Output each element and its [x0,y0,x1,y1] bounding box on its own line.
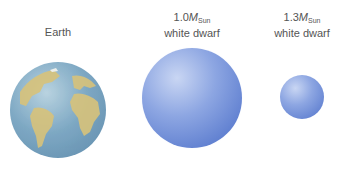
continents-icon [10,62,106,158]
white-dwarf-1-sphere [142,48,242,148]
earth-label: Earth [28,26,88,39]
earth-globe [10,62,106,158]
white-dwarf-2-sphere [280,75,324,119]
white-dwarf-2-label: 1.3MSun white dwarf [262,11,342,40]
